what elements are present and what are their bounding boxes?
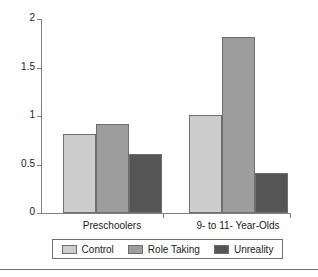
x-axis-line xyxy=(41,213,291,214)
plot-area: 2 1.5 1 0.5 0 Preschoolers 9- t xyxy=(41,19,291,214)
y-tick-label-0_5: 0.5 xyxy=(21,158,35,169)
legend-label-unreality: Unreality xyxy=(234,244,273,255)
legend-swatch-unreality-icon xyxy=(214,245,229,254)
y-tick-label-0: 0 xyxy=(29,206,35,217)
legend-swatch-role-taking-icon xyxy=(128,245,143,254)
chart-legend: Control Role Taking Unreality xyxy=(52,239,283,259)
y-tick-label-1: 1 xyxy=(29,109,35,120)
y-axis-line xyxy=(41,19,42,214)
bottom-divider-rule xyxy=(0,269,318,270)
bar-preschoolers-control xyxy=(63,134,96,213)
legend-entry-control: Control xyxy=(62,244,114,255)
bar-chart-figure: 2 1.5 1 0.5 0 Preschoolers 9- t xyxy=(0,0,318,277)
legend-label-role-taking: Role Taking xyxy=(148,244,200,255)
x-axis-tick-end xyxy=(290,213,291,218)
legend-entry-role-taking: Role Taking xyxy=(128,244,200,255)
bar-preschoolers-role-taking xyxy=(96,124,129,213)
y-tick-label-2: 2 xyxy=(29,12,35,23)
legend-swatch-control-icon xyxy=(62,245,77,254)
bar-9-to-11-year-olds-control xyxy=(189,115,222,213)
legend-entry-unreality: Unreality xyxy=(214,244,273,255)
bar-9-to-11-year-olds-role-taking xyxy=(222,37,255,213)
y-tick-label-1_5: 1.5 xyxy=(21,61,35,72)
bar-preschoolers-unreality xyxy=(129,154,162,213)
x-axis-label-9-to-11-year-olds: 9- to 11- Year-Olds xyxy=(178,220,298,232)
x-axis-label-preschoolers: Preschoolers xyxy=(52,220,172,232)
bar-9-to-11-year-olds-unreality xyxy=(255,173,288,213)
legend-label-control: Control xyxy=(82,244,114,255)
x-axis-tick-group-divider xyxy=(163,213,164,218)
